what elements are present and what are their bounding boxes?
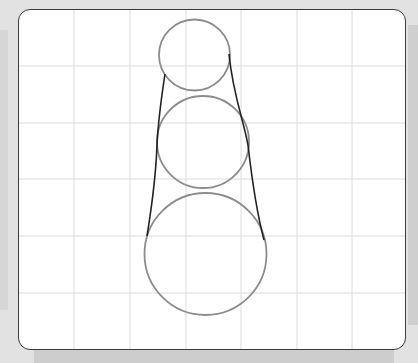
right-tangent-curve (229, 54, 264, 240)
diagram-canvas (0, 0, 418, 363)
circles-group (145, 20, 267, 316)
top-circle (159, 20, 230, 91)
middle-circle (157, 96, 249, 188)
grid (19, 10, 405, 349)
tangent-curves (147, 54, 264, 240)
bottom-circle (145, 193, 267, 315)
